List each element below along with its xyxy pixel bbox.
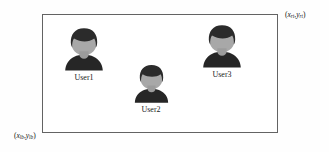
coordinate-label-bottom-left: (xlb,ylb) — [14, 131, 36, 140]
coord-close-paren: ) — [303, 10, 306, 19]
figure-canvas: (xrt,yrt) (xlb,ylb) User1 User2 — [0, 0, 329, 152]
person-avatar-icon — [62, 26, 106, 72]
user-avatar-group-2: User2 — [122, 63, 180, 115]
user-avatar-label-1: User1 — [52, 73, 116, 83]
user-avatar-label-3: User3 — [190, 70, 254, 80]
coord-close-paren: ) — [33, 131, 36, 140]
user-avatar-group-1: User1 — [52, 26, 116, 83]
coordinate-label-top-right: (xrt,yrt) — [285, 10, 306, 19]
person-avatar-icon — [200, 23, 244, 69]
user-avatar-group-3: User3 — [190, 23, 254, 80]
user-avatar-label-2: User2 — [122, 105, 180, 115]
person-avatar-icon — [132, 63, 171, 104]
